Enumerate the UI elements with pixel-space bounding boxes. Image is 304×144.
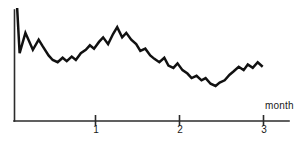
chart-plot-area: [0, 0, 304, 144]
data-series-line: [17, 8, 263, 86]
line-chart-figure: month 1 2 3: [0, 0, 304, 144]
x-tick-label-1: 1: [89, 124, 103, 135]
x-tick-label-3: 3: [257, 124, 271, 135]
x-axis-title: month: [265, 100, 294, 111]
x-tick-label-2: 2: [173, 124, 187, 135]
